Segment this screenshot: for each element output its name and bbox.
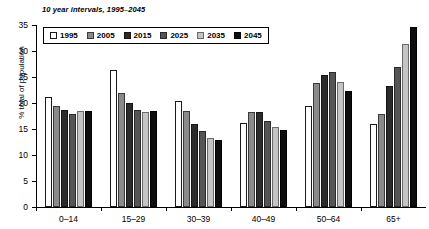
legend-label: 2015 [134,31,152,40]
bar-2015-30–39 [191,124,198,207]
bar-2035-50–64 [337,82,344,207]
bar-2005-40–49 [248,112,255,207]
y-tick-mark [32,25,36,26]
bar-1995-0–14 [45,97,52,207]
bar-2015-65+ [386,86,393,207]
bar-1995-30–39 [175,101,182,207]
bar-2035-30–39 [207,138,214,207]
legend-item-2015[interactable]: 2015 [124,31,152,40]
bar-group [231,25,296,207]
bar-2025-40–49 [264,121,271,207]
bar-2015-0–14 [61,110,68,207]
bar-2025-50–64 [329,72,336,207]
legend-label: 2045 [244,31,262,40]
bar-2025-30–39 [199,131,206,207]
bar-2025-0–14 [69,114,76,207]
x-tick-label: 30–39 [166,214,231,224]
legend-swatch-icon [124,32,131,39]
bar-2005-50–64 [313,83,320,207]
x-tick-label: 65+ [361,214,426,224]
bar-2005-30–39 [183,111,190,207]
y-tick-label: 30 [0,47,28,56]
legend-label: 1995 [60,31,78,40]
bar-2045-30–39 [215,140,222,207]
bar-chart: 10 year intervals, 1995–2045 % total of … [0,0,429,229]
y-tick-label: 10 [0,151,28,160]
x-tick-mark [296,207,297,211]
legend-swatch-icon [50,32,57,39]
bar-2035-40–49 [272,127,279,207]
y-tick-mark [32,181,36,182]
legend-swatch-icon [234,32,241,39]
bar-1995-50–64 [305,106,312,207]
x-tick-label: 50–64 [296,214,361,224]
x-tick-mark [231,207,232,211]
legend-item-2045[interactable]: 2045 [234,31,262,40]
bar-2025-15–29 [134,110,141,207]
x-axis-tick-labels: 0–1415–2930–3940–4950–6465+ [36,214,426,224]
bar-groups [36,25,426,207]
y-tick-mark [32,155,36,156]
x-tick-mark [101,207,102,211]
y-tick-mark [32,103,36,104]
bar-2025-65+ [394,67,401,207]
bar-2045-40–49 [280,130,287,207]
bar-2045-65+ [410,27,417,207]
bar-group [166,25,231,207]
bar-group [36,25,101,207]
bar-group [296,25,361,207]
y-tick-label: 5 [0,177,28,186]
legend-item-2035[interactable]: 2035 [197,31,225,40]
y-tick-label: 0 [0,203,28,212]
y-axis-tick-labels: 05101520253035 [0,0,34,229]
bar-2035-0–14 [77,111,84,207]
y-tick-label: 20 [0,99,28,108]
y-tick-label: 15 [0,125,28,134]
bar-2045-50–64 [345,91,352,207]
legend-swatch-icon [197,32,204,39]
x-tick-mark [36,207,37,211]
legend-label: 2035 [207,31,225,40]
y-tick-mark [32,77,36,78]
legend-swatch-icon [160,32,167,39]
x-tick-label: 0–14 [36,214,101,224]
y-tick-label: 35 [0,21,28,30]
bar-2035-65+ [402,44,409,207]
bar-2005-15–29 [118,93,125,207]
bar-2045-0–14 [85,111,92,207]
y-tick-label: 25 [0,73,28,82]
bar-2015-40–49 [256,112,263,207]
y-tick-mark [32,129,36,130]
legend-label: 2025 [170,31,188,40]
bar-1995-15–29 [110,70,117,207]
legend-item-2005[interactable]: 2005 [87,31,115,40]
x-tick-label: 40–49 [231,214,296,224]
bar-group [101,25,166,207]
bar-group [361,25,426,207]
bar-1995-65+ [370,124,377,207]
legend-swatch-icon [87,32,94,39]
chart-subtitle: 10 year intervals, 1995–2045 [42,5,145,14]
bar-2005-0–14 [53,106,60,207]
legend-item-1995[interactable]: 1995 [50,31,78,40]
bar-2045-15–29 [150,111,157,207]
legend-item-2025[interactable]: 2025 [160,31,188,40]
legend-label: 2005 [97,31,115,40]
bar-2015-15–29 [126,103,133,207]
x-tick-mark [166,207,167,211]
bar-2005-65+ [378,114,385,207]
bar-2035-15–29 [142,112,149,207]
bar-1995-40–49 [240,123,247,207]
x-tick-label: 15–29 [101,214,166,224]
bar-2015-50–64 [321,75,328,207]
chart-legend: 199520052015202520352045 [43,27,269,44]
x-tick-mark [361,207,362,211]
y-tick-mark [32,51,36,52]
